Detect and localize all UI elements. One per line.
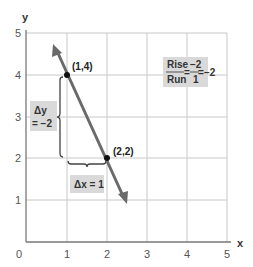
y-tick-3: 3 (15, 111, 21, 123)
delta-x-label: Δx = 1 (70, 175, 104, 193)
y-tick-labels: 1 2 3 4 5 (15, 27, 21, 206)
y-tick-4: 4 (15, 69, 21, 81)
delta-y-label: Δy = −2 (30, 101, 57, 131)
slope-result: −2 (204, 67, 216, 78)
x-tick-0: 0 (16, 248, 22, 260)
slope-chart: y x 0 1 2 3 4 5 1 2 3 4 5 Δy = −2 Δx = 1… (0, 0, 253, 267)
y-axis-label: y (22, 11, 29, 23)
delta-y-text-2: = −2 (32, 118, 52, 129)
x-tick-labels: 0 1 2 3 4 5 (16, 248, 230, 260)
arrow-down-icon (118, 191, 128, 204)
y-tick-1: 1 (15, 194, 21, 206)
delta-x-brace (68, 161, 106, 167)
x-tick-3: 3 (144, 248, 150, 260)
y-tick-2: 2 (15, 152, 21, 164)
point-label-1-4: (1,4) (72, 61, 93, 72)
delta-y-text-1: Δy (34, 105, 47, 116)
x-tick-1: 1 (64, 248, 70, 260)
x-tick-5: 5 (224, 248, 230, 260)
delta-x-text: Δx = 1 (74, 179, 104, 190)
y-tick-5: 5 (15, 27, 21, 39)
point-label-2-2: (2,2) (113, 146, 134, 157)
x-tick-2: 2 (104, 248, 110, 260)
slope-formula: Rise Run = −2 1 = −2 (163, 57, 216, 87)
point-2-2 (104, 155, 110, 161)
x-tick-4: 4 (184, 248, 190, 260)
point-1-4 (64, 72, 70, 78)
arrow-up-icon (52, 44, 62, 57)
x-axis-label: x (237, 237, 244, 249)
